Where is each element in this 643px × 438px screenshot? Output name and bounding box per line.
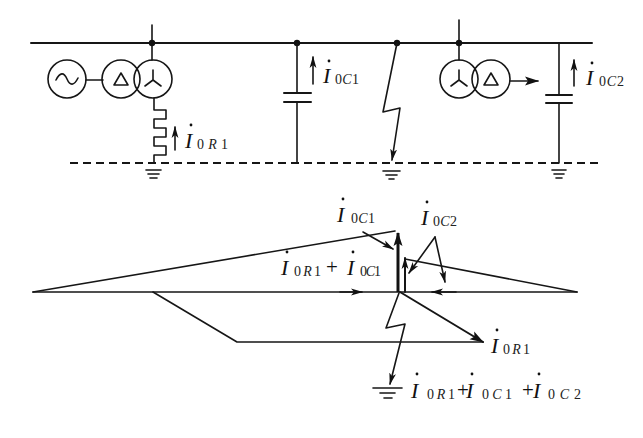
- bus-node-right: [456, 40, 462, 46]
- upper-right-current-path: [405, 259, 577, 292]
- bus-node-left: [149, 40, 155, 46]
- svg-text:I: I: [336, 202, 346, 227]
- ground-icon: [552, 170, 566, 178]
- phasor-label-i0r1: I 0R1: [490, 329, 530, 358]
- svg-text:I: I: [280, 255, 290, 280]
- label-i0c2: I 0C2: [585, 62, 624, 90]
- svg-text:+: +: [326, 255, 338, 279]
- capacitor-icon: [284, 93, 311, 102]
- circuit-schematic: I 0R1 I 0C1: [31, 20, 624, 179]
- zero-sequence-diagram: I 0R1 I 0C1: [0, 0, 643, 438]
- capacitor-c1: I 0C1: [284, 40, 359, 163]
- fault-lightning-icon: [386, 293, 405, 384]
- source-side-transformer: I 0R1: [48, 25, 228, 178]
- current-distribution-diagram: I 0C1 I 0C2 I 0R1 + I 0C1 I 0R1 I: [33, 198, 581, 403]
- svg-text:I: I: [184, 128, 194, 153]
- capacitor-c2: I 0C2: [546, 43, 624, 178]
- svg-text:I: I: [585, 65, 595, 90]
- load-side-transformer: [440, 20, 538, 98]
- svg-text:0C1: 0C1: [360, 264, 381, 279]
- svg-text:I: I: [346, 255, 356, 280]
- upper-left-current-path: [33, 231, 395, 292]
- ground-icon: [146, 170, 161, 178]
- svg-text:0C2: 0C2: [599, 74, 624, 89]
- svg-text:I: I: [410, 378, 420, 403]
- svg-text:I: I: [420, 205, 430, 230]
- phasor-label-i0c2: I 0C2: [420, 201, 457, 230]
- svg-text:0C1: 0C1: [335, 72, 359, 87]
- fault-lightning-icon: [383, 43, 400, 160]
- svg-text:0C2: 0C2: [433, 214, 457, 229]
- phasor-arrow-i0r1: [400, 292, 483, 342]
- grounding-resistor-icon: [154, 98, 166, 163]
- ground-icon: [383, 171, 400, 179]
- capacitor-icon: [546, 95, 572, 103]
- callout-arrow-i0c2-a: [409, 237, 435, 273]
- svg-text:0R1: 0R1: [503, 342, 530, 357]
- ground-icon: [373, 388, 402, 398]
- svg-text:0R1: 0R1: [427, 387, 455, 402]
- svg-text:I: I: [465, 378, 475, 403]
- svg-text:0R1: 0R1: [197, 137, 228, 152]
- phasor-label-sum-r1-c1: I 0R1 + I 0C1: [280, 251, 381, 280]
- svg-text:I: I: [322, 63, 332, 88]
- svg-text:0C1: 0C1: [351, 211, 375, 226]
- label-i0r1: I 0R1: [184, 124, 228, 153]
- svg-text:0R1: 0R1: [294, 264, 321, 279]
- callout-arrow-i0c2-b: [435, 237, 445, 282]
- fault-point: [383, 40, 400, 179]
- svg-text:0C2: 0C2: [548, 387, 581, 402]
- svg-text:I: I: [532, 378, 542, 403]
- phasor-label-total-fault-current: I 0R1 + I 0C1 + I 0C2: [410, 373, 581, 403]
- svg-text:0C1: 0C1: [482, 387, 512, 402]
- label-i0c1: I 0C1: [322, 60, 359, 88]
- generator-icon: [48, 60, 86, 98]
- svg-text:I: I: [490, 333, 500, 358]
- phasor-label-i0c1: I 0C1: [336, 198, 375, 227]
- lower-loop-path: [153, 292, 483, 342]
